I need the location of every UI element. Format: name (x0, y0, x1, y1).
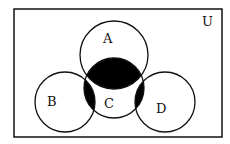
label-c: C (104, 96, 114, 111)
label-b: B (47, 94, 57, 109)
universe-label: U (202, 14, 213, 29)
label-d: D (156, 101, 166, 116)
label-a: A (102, 31, 113, 46)
venn-diagram: U A B C D (0, 0, 230, 144)
